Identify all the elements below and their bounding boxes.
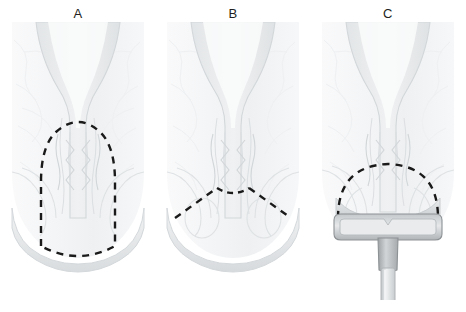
panel-c-label: C [310,6,466,22]
circular-stapler [334,214,442,300]
panel-a-label: A [0,6,156,22]
panel-a: A [0,0,156,300]
caption-artifact [6,300,206,310]
stapler-collar [378,238,398,272]
panel-c: C [310,0,466,300]
stapler-shaft [381,268,395,300]
figure-container: A [0,0,466,312]
panel-b: B [155,0,311,300]
panel-b-label: B [155,6,311,22]
panel-c-illustration [310,22,466,300]
panel-a-illustration [0,22,156,300]
panel-b-illustration [155,22,311,300]
